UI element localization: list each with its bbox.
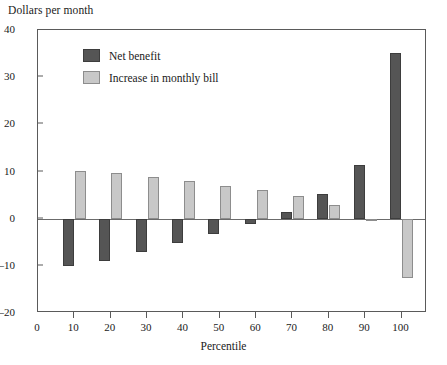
- x-tick-label-80: 80: [308, 321, 348, 333]
- x-tick-mark-30: [146, 312, 147, 318]
- x-tick-label-100: 100: [381, 321, 421, 333]
- x-tick-mark-10: [73, 312, 74, 318]
- y-tick-label-30: 30: [0, 70, 15, 82]
- legend-swatch-increase-in-monthly-bill: [83, 71, 100, 84]
- bar-increase-in-monthly-bill-p50: [220, 186, 231, 219]
- x-tick-mark-60: [255, 312, 256, 318]
- y-tick-label-20: 20: [0, 117, 15, 129]
- bar-net-benefit-p10: [63, 219, 74, 266]
- y-tick-label-40: 40: [0, 23, 15, 35]
- legend-label-net-benefit: Net benefit: [109, 50, 160, 62]
- bar-net-benefit-p50: [208, 219, 219, 234]
- x-tick-label-40: 40: [162, 321, 202, 333]
- x-tick-mark-70: [291, 312, 292, 318]
- x-tick-label-50: 50: [199, 321, 239, 333]
- x-tick-mark-50: [219, 312, 220, 318]
- bar-net-benefit-p20: [99, 219, 110, 261]
- bar-increase-in-monthly-bill-p10: [75, 171, 86, 219]
- y-tick-mark-0: [37, 217, 43, 218]
- x-tick-mark-90: [364, 312, 365, 318]
- bar-net-benefit-p40: [172, 219, 183, 244]
- legend-item-increase-in-monthly-bill[interactable]: Increase in monthly bill: [83, 71, 219, 84]
- y-tick-label-neg20: –20: [0, 306, 15, 318]
- y-tick-mark-10: [37, 170, 43, 171]
- bar-increase-in-monthly-bill-p40: [184, 181, 195, 218]
- bar-increase-in-monthly-bill-p80: [329, 205, 340, 218]
- x-tick-mark-40: [182, 312, 183, 318]
- y-tick-mark-30: [37, 76, 43, 77]
- y-tick-label-neg10: –10: [0, 259, 15, 271]
- x-tick-mark-20: [110, 312, 111, 318]
- page-title: Dollars per month: [8, 4, 93, 16]
- bar-net-benefit-p70: [281, 212, 292, 219]
- x-tick-label-0: 0: [17, 321, 57, 333]
- chart-legend: Net benefit Increase in monthly bill: [83, 49, 219, 93]
- bar-increase-in-monthly-bill-p60: [257, 190, 268, 219]
- x-tick-label-10: 10: [53, 321, 93, 333]
- bar-increase-in-monthly-bill-p90: [366, 219, 377, 221]
- bar-net-benefit-p80: [317, 194, 328, 219]
- bar-increase-in-monthly-bill-p30: [148, 177, 159, 219]
- bar-net-benefit-p60: [245, 219, 256, 225]
- x-axis-title: Percentile: [0, 340, 447, 352]
- bar-increase-in-monthly-bill-p100: [402, 219, 413, 278]
- x-tick-mark-100: [401, 312, 402, 318]
- x-tick-label-30: 30: [126, 321, 166, 333]
- y-tick-label-0: 0: [0, 212, 15, 224]
- bar-net-benefit-p100: [390, 53, 401, 219]
- x-tick-mark-80: [328, 312, 329, 318]
- y-tick-label-10: 10: [0, 165, 15, 177]
- y-tick-mark-20: [37, 123, 43, 124]
- x-tick-label-20: 20: [90, 321, 130, 333]
- x-tick-label-60: 60: [235, 321, 275, 333]
- bar-increase-in-monthly-bill-p20: [111, 173, 122, 219]
- legend-item-net-benefit[interactable]: Net benefit: [83, 49, 219, 62]
- bar-net-benefit-p90: [354, 165, 365, 218]
- bar-increase-in-monthly-bill-p70: [293, 196, 304, 218]
- legend-swatch-net-benefit: [83, 49, 100, 62]
- x-tick-label-90: 90: [344, 321, 384, 333]
- x-tick-label-70: 70: [271, 321, 311, 333]
- y-tick-mark-neg10: [37, 264, 43, 265]
- legend-label-increase-in-monthly-bill: Increase in monthly bill: [109, 72, 219, 84]
- bar-net-benefit-p30: [136, 219, 147, 252]
